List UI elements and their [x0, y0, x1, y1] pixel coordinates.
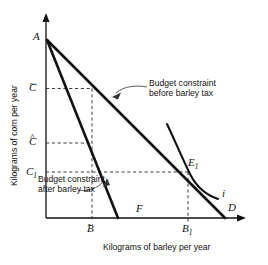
- point-label-e-one: E1: [188, 157, 198, 171]
- y-tick-label-c-tilde: ~C: [29, 82, 36, 93]
- point-base-e-one: E: [188, 156, 195, 168]
- point-label-f: F: [136, 203, 143, 214]
- y-tick-sub-c-one: 1: [33, 171, 37, 180]
- y-tick-label-c-one: C1: [26, 166, 37, 180]
- y-tick-label-c-hat: ^C: [29, 136, 36, 147]
- leader-before-tax-arrowhead: [112, 93, 121, 100]
- tilde-accent-b: ~: [87, 220, 93, 230]
- y-axis-title: Kilograms of corn per year: [10, 85, 20, 186]
- x-tick-base-b-one: B: [182, 222, 189, 234]
- tilde-accent-c: ~: [30, 79, 36, 89]
- annotation-before-barley-tax: Budget constraint before barley tax: [149, 78, 216, 99]
- curve-label-i: i: [222, 188, 225, 199]
- circumflex-accent-c: ^: [30, 133, 35, 143]
- y-axis-arrowhead: [43, 13, 50, 22]
- x-axis-arrowhead: [237, 215, 246, 222]
- point-label-d: D: [228, 202, 236, 213]
- annotation-after-barley-tax: Budget constraint after barley tax: [38, 174, 105, 195]
- diagram-canvas: [0, 0, 268, 265]
- x-tick-label-b-one: B1: [182, 223, 192, 237]
- x-tick-sub-b-one: 1: [189, 228, 193, 237]
- leader-before-tax-group: [112, 86, 147, 99]
- leader-before-tax-line: [116, 86, 147, 93]
- x-tick-label-b-tilde: ~B: [87, 223, 94, 234]
- budget-constraint-figure: Kilograms of corn per year Kilograms of …: [0, 0, 268, 265]
- point-label-a: A: [33, 31, 40, 42]
- point-sub-e-one: 1: [195, 162, 199, 171]
- x-axis-title: Kilograms of barley per year: [103, 243, 210, 253]
